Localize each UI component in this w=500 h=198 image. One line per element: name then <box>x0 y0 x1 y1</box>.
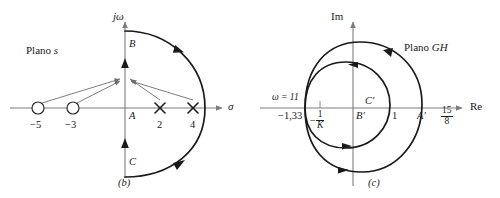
jomega-travel-arrow-lower <box>121 138 129 148</box>
critical-point-label: −1K <box>310 110 324 130</box>
jomega-axis-label: jω <box>113 11 124 22</box>
plane-label-s: Plano s <box>26 45 58 56</box>
panel-caption-b: (b) <box>118 178 130 189</box>
contour-arrowhead-lower <box>173 160 185 170</box>
critical-point-denominator: K <box>316 121 324 131</box>
figure-container: Plano s jω σ B A C −5 −3 2 4 (b) Pl <box>0 0 500 198</box>
contour-label-a: A <box>129 111 135 122</box>
pole-label-2: 2 <box>157 120 162 131</box>
sigma-axis-label: σ <box>228 101 233 112</box>
zero-marker-minus-5 <box>32 102 44 114</box>
pole-zero-vectors <box>42 79 193 103</box>
outer-nyquist-loop <box>305 42 422 172</box>
zero-label-minus-5: −5 <box>30 120 41 131</box>
image-label-c-prime: C′ <box>365 96 374 107</box>
crossing-label-minus-1-33: −1,33 <box>278 111 302 122</box>
plane-label-gh: Plano GH <box>404 42 448 53</box>
vector-from-pole-4 <box>131 81 193 100</box>
contour-label-b: B <box>129 39 135 50</box>
crossing-label-fifteen-eighths: 15 8 <box>441 106 453 126</box>
panel-caption-c: (c) <box>368 178 380 189</box>
omega-value-label: ω = 11 <box>272 93 299 103</box>
s-plane-diagram <box>0 0 250 198</box>
re-axis-label: Re <box>470 101 482 112</box>
inner-nyquist-loop <box>305 62 390 148</box>
contour-label-c: C <box>129 157 136 168</box>
vector-from-zero-minus-5 <box>42 79 120 103</box>
image-label-b-prime: B′ <box>356 111 365 122</box>
crossing-label-one: 1 <box>392 111 397 122</box>
outer-loop-arrow-top <box>383 48 393 57</box>
vector-from-zero-minus-3 <box>77 81 120 103</box>
im-axis-label: Im <box>331 11 343 22</box>
zero-label-minus-3: −3 <box>65 120 76 131</box>
crossing-denominator: 8 <box>441 117 453 127</box>
zero-marker-minus-3 <box>67 102 79 114</box>
jomega-travel-arrow-upper <box>121 58 129 68</box>
pole-label-4: 4 <box>190 120 195 131</box>
outer-loop-arrow-bottom <box>338 167 349 174</box>
image-label-a-prime: A′ <box>417 111 426 122</box>
